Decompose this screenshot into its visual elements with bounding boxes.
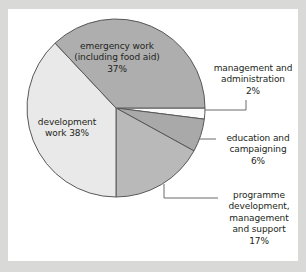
slice-label-development-work: development work 38%: [26, 117, 108, 140]
slice-label-education-and-campaigning: education and campaigning 6%: [214, 133, 302, 167]
slice-label-management-and-administration: management and administration 2%: [206, 63, 300, 97]
management-leader: [205, 100, 246, 110]
pie-chart-figure: emergency work (including food aid) 37% …: [0, 0, 306, 272]
slice-label-emergency-work: emergency work (including food aid) 37%: [63, 41, 171, 75]
slice-label-programme-development: programme development, management and su…: [216, 190, 302, 247]
programme-leader: [164, 184, 218, 198]
